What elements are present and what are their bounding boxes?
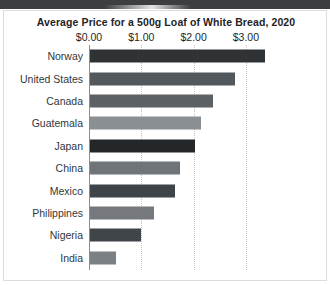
bar — [90, 229, 141, 242]
bar-row: Mexico — [4, 179, 328, 201]
bar-category-label: Mexico — [50, 185, 83, 197]
bar — [90, 162, 180, 175]
bar — [90, 117, 201, 130]
bar-category-label: China — [56, 162, 83, 174]
bar — [90, 139, 195, 152]
bar-row: Guatemala — [4, 112, 328, 134]
window-top-band — [0, 0, 330, 9]
bar-row: Japan — [4, 135, 328, 157]
bar-category-label: Japan — [54, 140, 83, 152]
bar — [90, 94, 213, 107]
plot-area: $0.00$1.00$2.00$3.00 NorwayUnited States… — [4, 11, 328, 282]
bar — [90, 50, 265, 63]
bar-row: Philippines — [4, 202, 328, 224]
bar-row: Canada — [4, 90, 328, 112]
bar — [90, 206, 154, 219]
bar — [90, 251, 116, 264]
bar-category-label: Guatemala — [32, 117, 83, 129]
x-tick-label: $0.00 — [59, 31, 119, 43]
bar-category-label: India — [60, 252, 83, 264]
bar-row: United States — [4, 67, 328, 89]
bar-category-label: Canada — [46, 95, 83, 107]
bar-category-label: Norway — [47, 50, 83, 62]
bar-category-label: Nigeria — [50, 229, 83, 241]
bar-row: India — [4, 247, 328, 269]
bar-category-label: Philippines — [32, 207, 83, 219]
chart-card: Average Price for a 500g Loaf of White B… — [3, 10, 327, 281]
bar — [90, 72, 235, 85]
x-tick-label: $1.00 — [111, 31, 171, 43]
bar-category-label: United States — [20, 73, 83, 85]
bar-row: Norway — [4, 45, 328, 67]
bar-row: Nigeria — [4, 224, 328, 246]
top-band-glint — [105, 5, 190, 9]
bar-row: China — [4, 157, 328, 179]
bar — [90, 184, 175, 197]
x-tick-label: $2.00 — [164, 31, 224, 43]
bar-rows: NorwayUnited StatesCanadaGuatemalaJapanC… — [4, 45, 328, 269]
screenshot-root: Average Price for a 500g Loaf of White B… — [0, 0, 330, 285]
x-tick-label: $3.00 — [216, 31, 276, 43]
